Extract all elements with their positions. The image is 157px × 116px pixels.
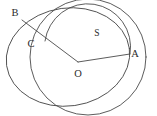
radius-oa-line [78,54,130,62]
region-label-s: S [94,28,99,38]
point-label-a: A [131,48,139,59]
outer-ellipse-shape [0,0,136,114]
large-circle-shape [30,0,146,115]
figure-canvas: B C S A O [0,0,157,116]
point-label-b: B [11,7,18,18]
point-label-c: C [27,38,34,49]
point-label-o: O [74,68,82,79]
geometry-figure: B C S A O [0,0,157,116]
